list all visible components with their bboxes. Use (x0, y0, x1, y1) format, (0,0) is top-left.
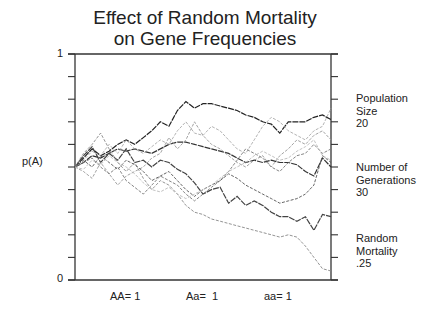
series-line-8 (75, 144, 331, 201)
series-line-6 (75, 108, 331, 167)
series-line-4 (75, 133, 331, 271)
series-line-5 (75, 122, 331, 185)
series-line-3 (75, 147, 331, 231)
plot-area (0, 0, 446, 314)
series-line-1 (75, 102, 331, 168)
